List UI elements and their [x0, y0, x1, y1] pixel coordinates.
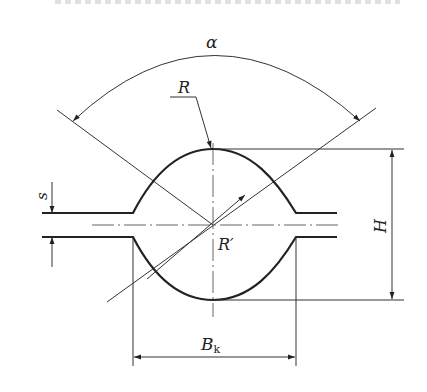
angle-leg-right — [107, 108, 376, 302]
radius-r-leader — [170, 97, 211, 148]
bk-label-subscript: k — [214, 343, 221, 356]
radius-r-label: R — [177, 78, 190, 97]
h-label: H — [371, 218, 390, 234]
bk-label: Bk — [200, 334, 221, 356]
profile-top-bulge — [42, 149, 337, 213]
profile-bottom-bulge — [42, 237, 337, 300]
alpha-dimension-arc — [73, 56, 360, 122]
profile-diagram: α R R′ s H Bk — [0, 0, 427, 392]
bk-label-base: B — [200, 334, 214, 354]
s-label: s — [33, 192, 51, 200]
radius-r-prime-label: R′ — [217, 235, 234, 254]
alpha-label: α — [206, 32, 218, 52]
